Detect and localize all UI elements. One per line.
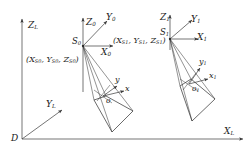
station0-x-axis-label: X0 [101, 48, 111, 58]
diagram-canvas: ZL YL XL D Z0 Y0 X0 S0 (XS0, YS0, ZS0) y… [0, 0, 252, 149]
station0-point-label: S0 [72, 37, 81, 46]
station0-z-axis-label: Z0 [86, 18, 96, 28]
station1-image-origin-label: o1 [192, 85, 199, 93]
station1-x-axis-label: X1 [197, 33, 207, 43]
station0-image-x-axis-label: x [125, 85, 130, 93]
station1-coordinates-label: (XS1, YS1, ZS1) [113, 37, 166, 45]
global-y-axis-label: YL [46, 100, 56, 110]
station1-y-axis-label: Y1 [191, 15, 201, 25]
station1-center-dot [169, 38, 171, 40]
global-x-axis-label: XL [224, 127, 234, 137]
station0-center-dot [82, 45, 84, 47]
station0-image-plane [94, 96, 133, 132]
global-z-axis-label: ZL [28, 21, 38, 31]
station0-image-origin-label: o [106, 97, 111, 105]
station0-image-y-axis-label: y [115, 76, 120, 84]
station1-y-axis [170, 20, 192, 39]
global-origin-label: D [11, 134, 18, 143]
station1-z-axis-label: Z1 [160, 13, 170, 23]
global-y-axis [22, 110, 62, 139]
station0-coordinates-label: (XS0, YS0, ZS0) [26, 56, 79, 64]
station0-y-axis-label: Y0 [106, 13, 116, 23]
station1-image-y-axis-label: y1 [199, 58, 207, 66]
station1-image-x-axis-label: x1 [209, 72, 217, 80]
